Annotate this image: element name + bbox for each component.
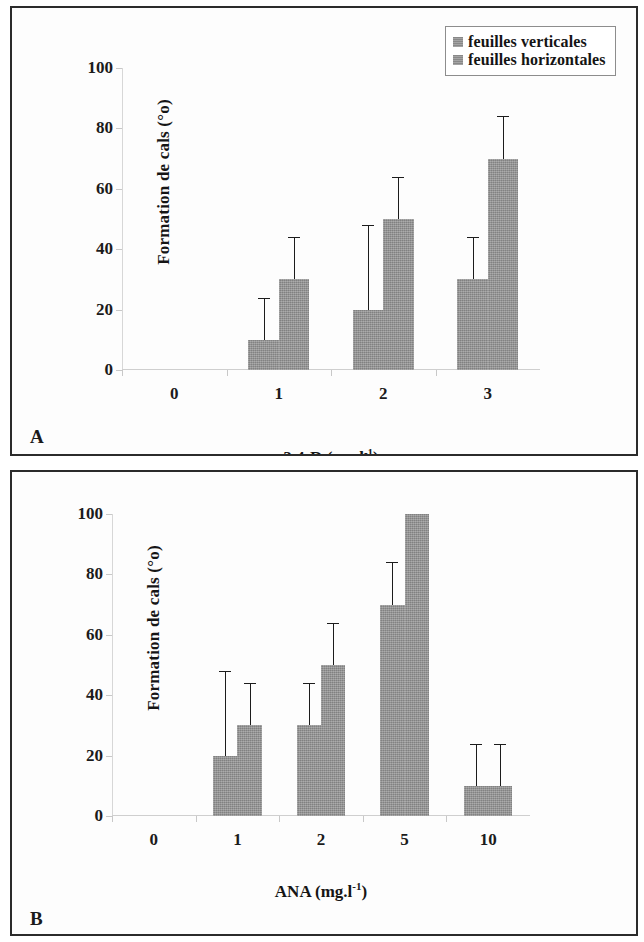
y-tick-a-80 — [116, 128, 122, 129]
x-tick-label-b-0: 0 — [150, 830, 159, 850]
legend-a: feuilles verticales feuilles horizontale… — [445, 26, 616, 76]
bar-b-2-horizontales — [321, 665, 345, 816]
x-tick-label-a-1: 1 — [275, 384, 284, 404]
y-tick-label-a-0: 0 — [105, 360, 114, 380]
y-tick-label-a-100: 100 — [88, 58, 114, 78]
y-tick-b-20 — [106, 756, 112, 757]
bar-a-3-verticales — [457, 279, 487, 370]
error-bar-a-1-horizontales — [294, 237, 295, 279]
panel-b: Formation de cals (°o) ANA (mg.l-1) 0204… — [10, 470, 638, 936]
x-tick-b-3 — [363, 816, 364, 822]
bar-b-1-verticales — [213, 756, 237, 816]
figure-page: Formation de cals (°o) 2,4-D (mg.l-1) 02… — [0, 0, 644, 942]
error-bar-a-1-verticales — [264, 298, 265, 340]
x-axis-title-a-main: 2,4-D (mg.l — [283, 448, 364, 456]
error-cap-b-5-verticales — [386, 562, 398, 563]
y-tick-a-100 — [116, 68, 122, 69]
x-tick-a-0 — [122, 370, 123, 376]
x-axis-title-a-close: ) — [373, 448, 379, 456]
panel-letter-a: A — [30, 426, 44, 448]
error-bar-b-5-verticales — [392, 562, 393, 604]
legend-swatch-icon-vertical-a — [453, 37, 463, 47]
y-axis-title-b: Formation de cals (°o) — [144, 508, 164, 748]
bar-a-2-horizontales — [383, 219, 413, 370]
x-tick-b-0 — [112, 816, 113, 822]
bar-b-5-verticales — [380, 605, 404, 816]
x-tick-label-b-1: 1 — [233, 830, 242, 850]
error-bar-b-2-horizontales — [333, 623, 334, 665]
legend-item-horizontal-a: feuilles horizontales — [453, 52, 606, 68]
error-bar-a-3-horizontales — [503, 116, 504, 158]
y-tick-label-b-100: 100 — [78, 504, 104, 524]
y-tick-b-40 — [106, 695, 112, 696]
error-bar-a-2-horizontales — [398, 177, 399, 219]
bar-b-5-horizontales — [405, 514, 429, 816]
error-cap-b-1-verticales — [219, 671, 231, 672]
bar-a-2-verticales — [353, 310, 383, 370]
bar-b-1-horizontales — [237, 725, 261, 816]
y-axis-line-b — [112, 514, 113, 816]
plot-area-b: Formation de cals (°o) ANA (mg.l-1) 0204… — [112, 514, 530, 816]
bar-a-1-verticales — [248, 340, 278, 370]
y-tick-label-a-80: 80 — [96, 118, 113, 138]
legend-label-horizontal-a: feuilles horizontales — [468, 52, 606, 68]
x-axis-title-b: ANA (mg.l-1) — [112, 880, 530, 902]
y-tick-label-b-80: 80 — [86, 564, 103, 584]
y-tick-b-100 — [106, 514, 112, 515]
x-tick-label-b-2: 2 — [317, 830, 326, 850]
y-tick-label-b-20: 20 — [86, 746, 103, 766]
x-tick-a-2 — [331, 370, 332, 376]
error-cap-b-1-horizontales — [244, 683, 256, 684]
legend-label-vertical-a: feuilles verticales — [468, 34, 587, 50]
legend-item-vertical-a: feuilles verticales — [453, 34, 606, 50]
x-tick-label-a-0: 0 — [170, 384, 179, 404]
error-cap-b-2-verticales — [303, 683, 315, 684]
error-bar-b-1-verticales — [225, 671, 226, 756]
bar-b-2-verticales — [297, 725, 321, 816]
error-cap-a-1-horizontales — [288, 237, 300, 238]
y-axis-title-a: Formation de cals (°o) — [154, 62, 174, 302]
error-cap-a-3-verticales — [467, 237, 479, 238]
x-tick-a-3 — [436, 370, 437, 376]
y-tick-label-a-20: 20 — [96, 300, 113, 320]
panel-a: Formation de cals (°o) 2,4-D (mg.l-1) 02… — [10, 6, 638, 456]
bar-a-1-horizontales — [279, 279, 309, 370]
x-axis-title-a-exponent: -1 — [364, 446, 373, 456]
x-tick-label-b-10: 10 — [480, 830, 497, 850]
x-tick-a-1 — [227, 370, 228, 376]
y-tick-label-b-40: 40 — [86, 685, 103, 705]
y-tick-a-60 — [116, 189, 122, 190]
error-bar-b-10-verticales — [476, 744, 477, 786]
y-tick-b-60 — [106, 635, 112, 636]
x-tick-b-1 — [196, 816, 197, 822]
error-cap-a-2-verticales — [362, 225, 374, 226]
y-tick-label-a-40: 40 — [96, 239, 113, 259]
x-axis-title-a: 2,4-D (mg.l-1) — [122, 446, 540, 456]
x-tick-label-a-3: 3 — [484, 384, 493, 404]
plot-area-a: Formation de cals (°o) 2,4-D (mg.l-1) 02… — [122, 68, 540, 370]
x-tick-b-2 — [279, 816, 280, 822]
x-axis-title-b-main: ANA (mg.l — [275, 882, 352, 901]
y-tick-a-40 — [116, 249, 122, 250]
error-bar-a-3-verticales — [473, 237, 474, 279]
bar-b-10-verticales — [464, 786, 488, 816]
y-tick-b-80 — [106, 574, 112, 575]
x-tick-label-b-5: 5 — [400, 830, 409, 850]
y-tick-label-a-60: 60 — [96, 179, 113, 199]
legend-swatch-icon-horizontal-a — [453, 55, 463, 65]
y-axis-line-a — [122, 68, 123, 370]
bar-b-10-horizontales — [488, 786, 512, 816]
error-cap-a-2-horizontales — [392, 177, 404, 178]
panel-letter-b: B — [30, 908, 43, 930]
x-axis-title-b-close: ) — [361, 882, 367, 901]
error-bar-b-10-horizontales — [500, 744, 501, 786]
error-bar-b-2-verticales — [309, 683, 310, 725]
y-tick-label-b-0: 0 — [95, 806, 104, 826]
error-cap-a-1-verticales — [258, 298, 270, 299]
y-tick-a-20 — [116, 310, 122, 311]
x-tick-b-4 — [446, 816, 447, 822]
error-bar-a-2-verticales — [368, 225, 369, 310]
y-tick-label-b-60: 60 — [86, 625, 103, 645]
x-tick-label-a-2: 2 — [379, 384, 388, 404]
error-cap-b-10-horizontales — [494, 744, 506, 745]
